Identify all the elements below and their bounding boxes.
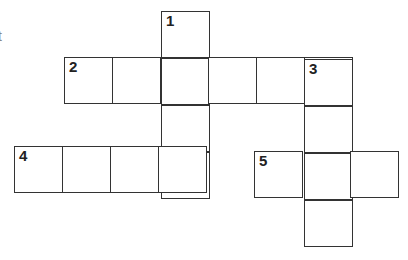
- cell-2-across-4[interactable]: [208, 57, 257, 104]
- cell-4-across-3[interactable]: [110, 146, 159, 193]
- clue-number-4: 4: [19, 148, 27, 164]
- clue-number-3: 3: [309, 61, 317, 77]
- clue-number-5: 5: [259, 153, 267, 169]
- cell-2-across-1[interactable]: 2: [64, 57, 113, 104]
- cell-4-across-1[interactable]: 4: [14, 146, 63, 193]
- cell-5-across-1[interactable]: 5: [254, 151, 303, 198]
- cell-3-down-3[interactable]: [304, 153, 353, 200]
- cell-1-down-2[interactable]: [161, 58, 210, 105]
- cell-1-down-1[interactable]: 1: [161, 11, 210, 58]
- clue-number-1: 1: [166, 13, 174, 29]
- cell-4-across-2[interactable]: [62, 146, 111, 193]
- cell-3-down-1[interactable]: 3: [304, 59, 353, 106]
- cell-2-across-5[interactable]: [256, 57, 305, 104]
- cell-4-across-4[interactable]: [158, 146, 207, 193]
- cell-2-across-2[interactable]: [112, 57, 161, 104]
- cell-3-down-4[interactable]: [304, 200, 353, 247]
- cell-3-down-2[interactable]: [304, 106, 353, 153]
- clue-number-2: 2: [69, 59, 77, 75]
- cell-1-down-3[interactable]: [161, 105, 210, 152]
- partial-edge-text: t: [0, 28, 2, 44]
- cell-5-across-3[interactable]: [350, 151, 399, 198]
